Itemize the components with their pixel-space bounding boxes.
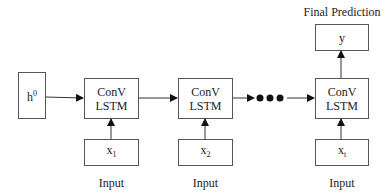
cell-label-line1: ConV bbox=[191, 85, 220, 99]
cell-label-line1: ConV bbox=[97, 85, 126, 99]
convlstm-cell-1: ConVLSTM bbox=[84, 78, 139, 119]
input-t-label: xt bbox=[338, 143, 346, 162]
convlstm-cell-t: ConVLSTM bbox=[315, 78, 369, 119]
input-caption-t: Input bbox=[315, 176, 369, 191]
final-prediction-title: Final Prediction bbox=[300, 5, 384, 20]
output-box: y bbox=[315, 24, 369, 51]
input-box-t: xt bbox=[315, 139, 369, 166]
cell-label-line2: LSTM bbox=[95, 99, 127, 113]
cell-label-line2: LSTM bbox=[326, 99, 358, 113]
cell-label-line2: LSTM bbox=[189, 99, 221, 113]
input-box-2: x2 bbox=[178, 139, 233, 166]
convlstm-cell-2: ConVLSTM bbox=[178, 78, 233, 119]
initial-hidden-state-box: h0 bbox=[18, 72, 46, 119]
input-1-label: x1 bbox=[107, 143, 117, 162]
output-value: y bbox=[339, 31, 345, 45]
input-2-label: x2 bbox=[201, 143, 211, 162]
input-box-1: x1 bbox=[84, 139, 139, 166]
input-caption-2: Input bbox=[178, 176, 233, 191]
initial-hidden-state-label: h0 bbox=[27, 87, 37, 104]
input-caption-1: Input bbox=[84, 176, 139, 191]
cell-label-line1: ConV bbox=[328, 85, 357, 99]
